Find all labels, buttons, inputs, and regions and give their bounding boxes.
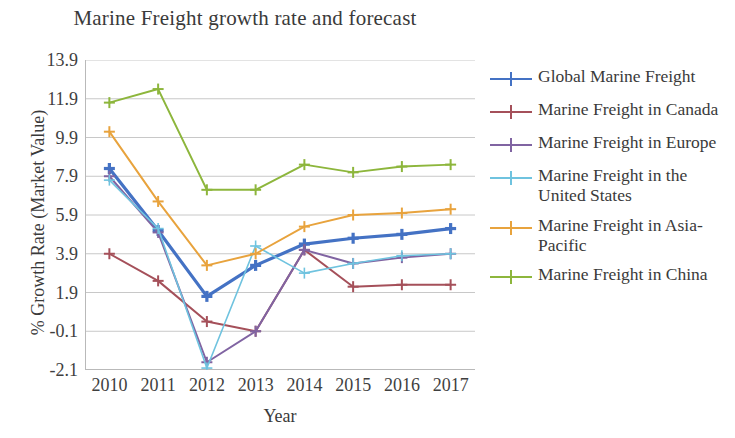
y-axis-tick-labels: 13.911.99.97.95.93.91.9-0.1-2.1 (8, 60, 78, 370)
legend-item[interactable]: Marine Freight in Asia-Pacific (490, 215, 735, 256)
data-point (153, 84, 164, 95)
data-point (299, 159, 310, 170)
plot-svg (85, 60, 475, 370)
y-tick-label: 5.9 (8, 206, 78, 224)
legend-item[interactable]: Global Marine Freight (490, 66, 735, 90)
legend-item[interactable]: Marine Freight in the United States (490, 165, 735, 206)
legend-marker-icon (490, 266, 532, 288)
chart-title: Marine Freight growth rate and forecast (0, 6, 490, 31)
x-tick-label: 2017 (421, 376, 481, 394)
legend-label: Global Marine Freight (538, 66, 695, 86)
chart-legend: Global Marine FreightMarine Freight in C… (490, 66, 735, 297)
data-point (104, 248, 115, 259)
legend-marker-icon (490, 217, 532, 239)
x-axis-tick-labels: 20102011201220132014201520162017 (85, 376, 475, 402)
data-point (348, 233, 359, 244)
data-point (250, 184, 261, 195)
data-point (396, 229, 407, 240)
data-point (348, 210, 359, 221)
legend-label: Marine Freight in Europe (538, 132, 716, 152)
legend-label: Marine Freight in Asia-Pacific (538, 215, 734, 256)
legend-item[interactable]: Marine Freight in Canada (490, 99, 735, 123)
series-line (109, 89, 450, 190)
data-point (445, 204, 456, 215)
data-point (348, 258, 359, 269)
series-line (109, 180, 450, 368)
plot-area (85, 60, 475, 370)
data-point (396, 161, 407, 172)
y-tick-label: 1.9 (8, 284, 78, 302)
data-point (250, 326, 261, 337)
data-point (396, 208, 407, 219)
legend-label: Marine Freight in Canada (538, 99, 718, 119)
y-tick-label: 7.9 (8, 167, 78, 185)
data-point (396, 279, 407, 290)
series-line (109, 132, 450, 266)
y-tick-label: 3.9 (8, 245, 78, 263)
legend-item[interactable]: Marine Freight in China (490, 264, 735, 288)
legend-marker-icon (490, 68, 532, 90)
data-point (201, 363, 212, 370)
x-axis-title: Year (85, 406, 475, 427)
data-point (445, 279, 456, 290)
legend-marker-icon (490, 101, 532, 123)
y-tick-label: 9.9 (8, 129, 78, 147)
legend-marker-icon (490, 134, 532, 156)
line-chart: Marine Freight growth rate and forecast … (0, 0, 735, 438)
legend-item[interactable]: Marine Freight in Europe (490, 132, 735, 156)
legend-label: Marine Freight in China (538, 264, 708, 284)
data-point (299, 268, 310, 279)
data-point (445, 159, 456, 170)
legend-label: Marine Freight in the United States (538, 165, 734, 206)
data-point (445, 223, 456, 234)
y-tick-label: 13.9 (8, 51, 78, 69)
data-point (396, 250, 407, 261)
legend-marker-icon (490, 167, 532, 189)
data-point (445, 248, 456, 259)
y-tick-label: -0.1 (8, 322, 78, 340)
data-point (299, 221, 310, 232)
data-point (201, 184, 212, 195)
y-tick-label: -2.1 (8, 361, 78, 379)
y-tick-label: 11.9 (8, 90, 78, 108)
